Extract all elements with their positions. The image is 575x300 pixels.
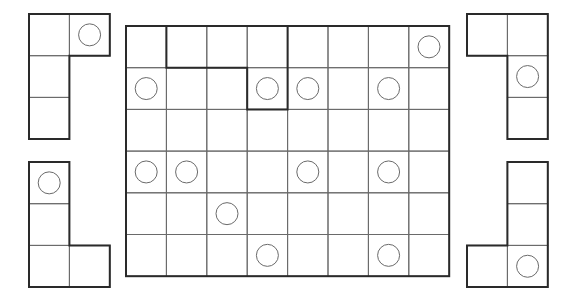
game-board[interactable] — [126, 26, 449, 276]
board-cell[interactable] — [166, 26, 206, 68]
board-cell[interactable] — [288, 193, 328, 235]
board-cell[interactable] — [166, 68, 206, 110]
piece-cell — [467, 14, 507, 56]
circle-marker-icon — [38, 172, 60, 194]
board-cell[interactable] — [126, 26, 166, 68]
board-cell[interactable] — [288, 235, 328, 277]
piece-cell — [29, 245, 69, 287]
circle-marker-icon — [256, 244, 278, 266]
board-cell[interactable] — [288, 109, 328, 151]
board-cell[interactable] — [126, 109, 166, 151]
piece-cell — [507, 14, 547, 56]
piece-cell — [29, 97, 69, 139]
piece-cell — [69, 245, 109, 287]
board-cell[interactable] — [328, 151, 368, 193]
board-cell[interactable] — [247, 193, 287, 235]
circle-marker-icon — [517, 66, 539, 88]
circle-marker-icon — [517, 255, 539, 277]
circle-marker-icon — [297, 78, 319, 100]
board-cell[interactable] — [166, 109, 206, 151]
circle-marker-icon — [378, 244, 400, 266]
board-cell[interactable] — [207, 26, 247, 68]
piece-bottom-right[interactable] — [467, 162, 548, 287]
board-cell[interactable] — [126, 193, 166, 235]
circle-marker-icon — [79, 24, 101, 46]
board-cell[interactable] — [368, 193, 408, 235]
piece-top-left[interactable] — [29, 14, 110, 139]
board-cell[interactable] — [409, 109, 449, 151]
piece-cell — [507, 97, 547, 139]
circle-marker-icon — [135, 161, 157, 183]
puzzle-canvas — [0, 0, 575, 300]
board-cell[interactable] — [409, 151, 449, 193]
circle-marker-icon — [256, 78, 278, 100]
board-cell[interactable] — [247, 109, 287, 151]
circle-marker-icon — [378, 161, 400, 183]
circle-marker-icon — [297, 161, 319, 183]
board-cell[interactable] — [368, 26, 408, 68]
board-cell[interactable] — [288, 26, 328, 68]
piece-cell — [29, 204, 69, 246]
board-cell[interactable] — [126, 235, 166, 277]
board-cell[interactable] — [409, 68, 449, 110]
board-cell[interactable] — [247, 151, 287, 193]
board-cell[interactable] — [207, 151, 247, 193]
piece-cell — [507, 204, 547, 246]
board-cell[interactable] — [166, 235, 206, 277]
board-cell[interactable] — [207, 109, 247, 151]
circle-marker-icon — [216, 203, 238, 225]
board-cell[interactable] — [328, 109, 368, 151]
piece-cell — [507, 162, 547, 204]
piece-top-right[interactable] — [467, 14, 548, 139]
circle-marker-icon — [418, 36, 440, 58]
piece-cell — [467, 245, 507, 287]
board-cell[interactable] — [368, 109, 408, 151]
board-cell[interactable] — [328, 235, 368, 277]
circle-marker-icon — [378, 78, 400, 100]
piece-cell — [29, 14, 69, 56]
board-cell[interactable] — [247, 26, 287, 68]
circle-marker-icon — [176, 161, 198, 183]
board-cell[interactable] — [207, 235, 247, 277]
piece-bottom-left[interactable] — [29, 162, 110, 287]
board-cell[interactable] — [166, 193, 206, 235]
board-cell[interactable] — [328, 68, 368, 110]
board-cell[interactable] — [328, 26, 368, 68]
board-cell[interactable] — [207, 68, 247, 110]
board-cell[interactable] — [328, 193, 368, 235]
circle-marker-icon — [135, 78, 157, 100]
board-cell[interactable] — [409, 235, 449, 277]
piece-cell — [29, 56, 69, 98]
board-cell[interactable] — [409, 193, 449, 235]
